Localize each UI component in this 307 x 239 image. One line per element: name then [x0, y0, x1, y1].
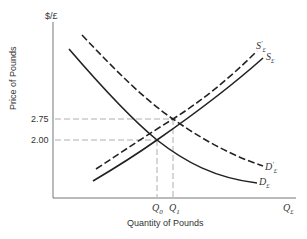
y-axis-unit: $/£ — [45, 12, 58, 21]
demand-curve-shifted — [82, 35, 263, 166]
x-axis-title: Quantity of Pounds — [127, 219, 204, 228]
tick-2-00: 2.00 — [31, 136, 49, 145]
label-demand: D£ — [259, 177, 270, 190]
tick-q1: Q1 — [169, 203, 180, 216]
y-axis-title: Price of Pounds — [8, 46, 18, 110]
label-supply-shifted: S'£ — [256, 40, 266, 54]
label-supply: S£ — [266, 52, 275, 65]
label-demand-shifted: D'£ — [265, 161, 277, 175]
demand-curve — [69, 49, 257, 183]
supply-curve-shifted — [96, 51, 257, 169]
x-axis-unit: Q£ — [283, 203, 294, 216]
tick-q0: Q0 — [152, 203, 163, 216]
tick-2-75: 2.75 — [31, 115, 49, 124]
supply-curve — [93, 58, 263, 181]
